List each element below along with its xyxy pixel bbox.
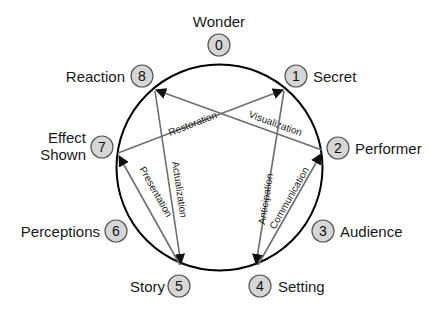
node-story: Story 5 <box>130 275 190 297</box>
node-wonder: Wonder 0 <box>193 13 245 56</box>
node-effect-shown: Effect Shown 7 <box>40 129 113 163</box>
node-label-shown: Shown <box>40 146 86 163</box>
node-number-1: 1 <box>292 68 300 84</box>
edge-actualization: Actualization <box>155 91 189 264</box>
node-performer: 2 Performer <box>327 137 422 159</box>
node-reaction: Reaction 8 <box>66 65 153 87</box>
edge-label-presentation: Presentation <box>137 165 174 219</box>
node-audience: 3 Audience <box>312 220 403 242</box>
node-number-6: 6 <box>112 223 120 239</box>
node-label-secret: Secret <box>313 68 357 85</box>
node-label-setting: Setting <box>278 278 325 295</box>
node-label-story: Story <box>130 278 166 295</box>
node-secret: 1 Secret <box>285 65 357 87</box>
node-label-audience: Audience <box>340 223 403 240</box>
edge-label-restoration: Restoration <box>167 109 219 138</box>
edge-presentation: Presentation <box>119 156 180 265</box>
node-setting: 4 Setting <box>249 275 325 297</box>
node-perceptions: Perceptions 6 <box>21 220 127 242</box>
node-number-4: 4 <box>256 278 264 294</box>
node-number-5: 5 <box>175 278 183 294</box>
node-label-performer: Performer <box>355 140 422 157</box>
node-number-0: 0 <box>215 37 223 53</box>
node-label-perceptions: Perceptions <box>21 223 100 240</box>
node-label-effect: Effect <box>48 129 87 146</box>
node-number-8: 8 <box>138 68 146 84</box>
node-label-wonder: Wonder <box>193 13 245 30</box>
node-label-reaction: Reaction <box>66 68 125 85</box>
node-number-2: 2 <box>334 140 342 156</box>
diagram-canvas: Restoration Visualization Actualization … <box>0 0 442 317</box>
node-number-3: 3 <box>319 223 327 239</box>
node-number-7: 7 <box>98 139 106 155</box>
